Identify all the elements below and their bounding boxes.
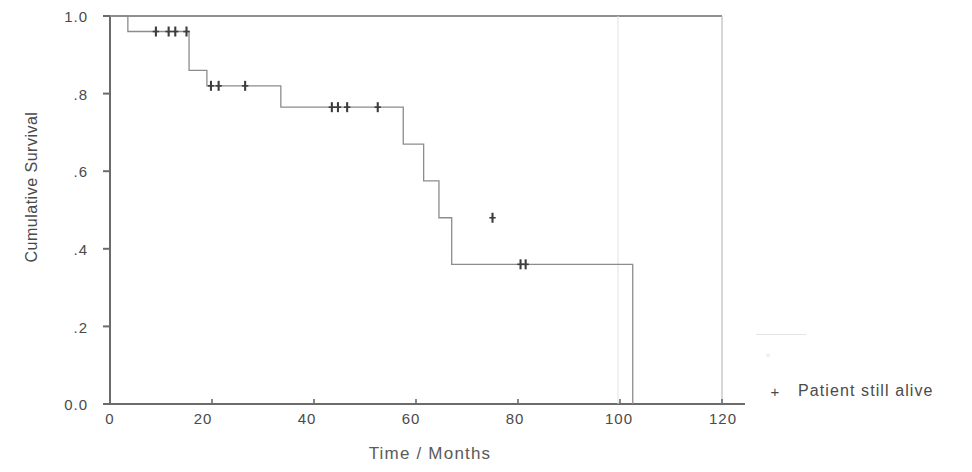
survival-curve [110, 16, 633, 404]
axis-lines [110, 16, 745, 404]
censor-mark [165, 27, 171, 37]
censor-mark [172, 27, 178, 37]
y-axis-ticks [103, 16, 110, 404]
censor-marks-group [153, 27, 529, 270]
censor-mark [242, 81, 248, 91]
legend-line-swatch [756, 334, 806, 335]
kaplan-meier-survival-figure: Cumulative Survival Time / Months 1.0 .8… [0, 0, 972, 472]
censor-mark [344, 102, 350, 112]
censor-mark [329, 102, 335, 112]
censor-mark [208, 81, 214, 91]
legend-entry-patient-still-alive: + Patient still alive [764, 382, 934, 400]
censor-mark [489, 213, 495, 223]
legend-entry-faded [756, 334, 818, 335]
legend-alive-label: Patient still alive [798, 382, 934, 400]
censor-mark [375, 102, 381, 112]
censor-mark [153, 27, 159, 37]
censor-mark [522, 259, 528, 269]
censor-mark [335, 102, 341, 112]
plus-icon: + [764, 383, 786, 400]
legend-faded-glyph: ▫ [766, 348, 770, 362]
legend: ▫ + Patient still alive [752, 330, 970, 410]
censor-mark [215, 81, 221, 91]
